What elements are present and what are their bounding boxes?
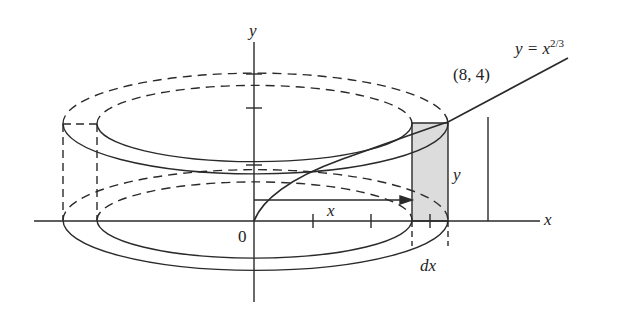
top-outer-back	[63, 73, 448, 124]
height-label: y	[453, 166, 461, 183]
bottom-outer-front	[63, 220, 448, 270]
thickness-label: dx	[420, 257, 436, 274]
top-outer-front	[63, 123, 448, 174]
point-label: (8, 4)	[453, 66, 490, 83]
curve	[254, 58, 568, 221]
curve-label: y = x2/3	[515, 38, 564, 57]
radius-label: x	[327, 202, 335, 219]
shell-strip	[412, 123, 448, 221]
y-axis-label: y	[249, 22, 257, 39]
origin-label: 0	[238, 228, 247, 245]
x-axis-label: x	[544, 211, 552, 228]
bottom-outer-back	[63, 170, 448, 220]
